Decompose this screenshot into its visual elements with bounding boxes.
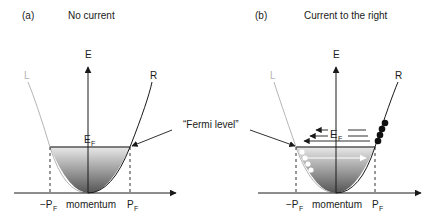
svg-text:F: F	[91, 140, 95, 147]
right-branch-label-b: R	[395, 70, 402, 81]
svg-text:−P: −P	[286, 199, 299, 210]
right-branch-label-a: R	[150, 70, 157, 81]
momentum-label-b: momentum	[312, 199, 362, 210]
neg-pf-label-a: −P F	[40, 199, 57, 212]
svg-text:E: E	[330, 128, 337, 140]
svg-text:F: F	[299, 205, 303, 212]
svg-text:−P: −P	[40, 199, 53, 210]
pf-label-a: P F	[127, 199, 138, 212]
energy-label-b: E	[333, 49, 340, 60]
svg-text:P: P	[127, 199, 134, 210]
neg-pf-label-b: −P F	[286, 199, 303, 212]
svg-text:F: F	[134, 205, 138, 212]
annotation-arrow-right	[250, 130, 295, 146]
momentum-label-a: momentum	[66, 199, 116, 210]
panel-a-title: No current	[68, 10, 115, 21]
panel-b-tag: (b)	[255, 10, 267, 21]
svg-text:E: E	[84, 134, 91, 145]
energy-label-a: E	[85, 49, 92, 60]
panel-b: (b) Current to the right	[255, 10, 421, 212]
panel-a-tag: (a)	[22, 10, 34, 21]
svg-text:F: F	[338, 135, 342, 142]
fermi-level-annotation: “Fermi level”	[132, 119, 295, 146]
fermi-energy-label-a: E F	[84, 134, 95, 147]
panel-a: (a) No current E L R E F −P F momentum P…	[14, 10, 176, 212]
svg-text:P: P	[372, 199, 379, 210]
fermi-sea-a	[50, 147, 130, 193]
left-branch-label-a: L	[24, 70, 30, 81]
fermi-level-text: “Fermi level”	[183, 119, 239, 130]
electrons-right	[375, 120, 389, 145]
panel-b-title: Current to the right	[304, 10, 388, 21]
svg-text:F: F	[379, 205, 383, 212]
annotation-arrow-left	[132, 130, 172, 146]
left-branch-label-b: L	[270, 70, 276, 81]
pf-label-b: P F	[372, 199, 383, 212]
svg-text:F: F	[53, 205, 57, 212]
band-diagram: (a) No current E L R E F −P F momentum P…	[0, 0, 434, 218]
